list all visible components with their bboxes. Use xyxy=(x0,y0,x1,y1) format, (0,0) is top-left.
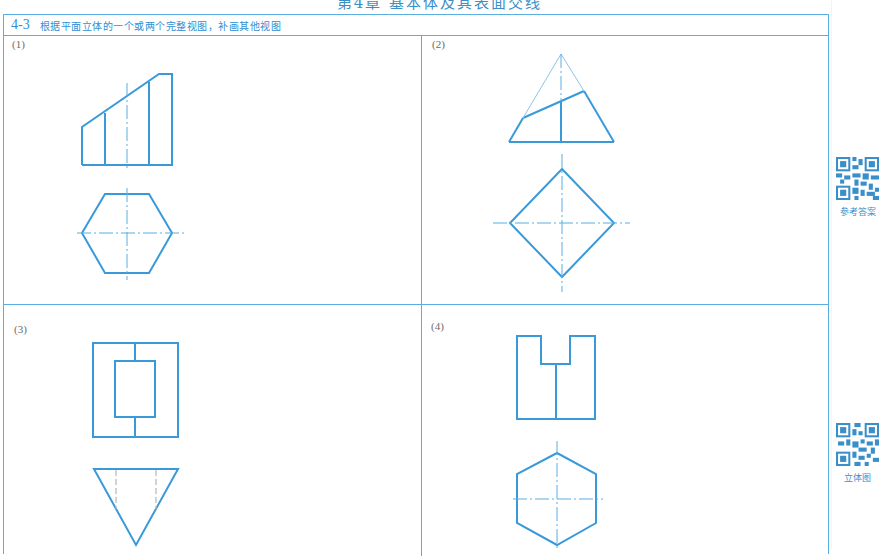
qr-code-icon xyxy=(836,157,879,200)
panel-2-hidden-apex xyxy=(523,54,584,118)
qr-3d-model[interactable]: 立体图 xyxy=(836,423,879,484)
qr-code-icon xyxy=(836,423,879,466)
panel-3-top-view-triangle xyxy=(94,469,178,545)
panel-3-hidden-lines xyxy=(116,470,156,509)
panel-3-front-view xyxy=(93,343,178,437)
center-lines xyxy=(77,54,630,549)
qr-caption: 立体图 xyxy=(836,471,879,484)
margin-divider xyxy=(831,0,832,549)
panel-4-front-view xyxy=(517,336,595,419)
qr-reference-answer[interactable]: 参考答案 xyxy=(836,157,879,218)
qr-caption: 参考答案 xyxy=(836,205,879,218)
